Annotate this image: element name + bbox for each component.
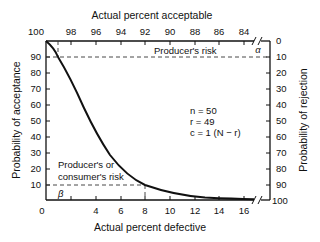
svg-text:10: 10 <box>165 205 176 216</box>
risk-label-line1: Producer's or <box>58 159 114 170</box>
svg-text:12: 12 <box>190 205 201 216</box>
param-n: n = 50 <box>190 105 217 116</box>
svg-text:90: 90 <box>30 51 41 62</box>
bottom-tick-labels: 0 4 6 8 10 12 14 16 <box>39 205 249 216</box>
svg-text:50: 50 <box>30 115 41 126</box>
svg-text:80: 80 <box>30 67 41 78</box>
svg-text:20: 20 <box>30 163 41 174</box>
svg-text:92: 92 <box>140 26 151 37</box>
svg-text:90: 90 <box>165 26 176 37</box>
svg-text:50: 50 <box>276 115 287 126</box>
right-axis-title: Probability of rejection <box>297 68 309 171</box>
svg-text:10: 10 <box>30 179 41 190</box>
left-axis-title: Probability of acceptance <box>10 61 22 178</box>
svg-text:0: 0 <box>39 205 44 216</box>
svg-text:60: 60 <box>276 131 287 142</box>
param-c: c = 1 (N − r) <box>190 127 241 138</box>
svg-text:100: 100 <box>272 195 288 206</box>
svg-text:90: 90 <box>276 179 287 190</box>
top-axis-title: Actual percent acceptable <box>92 9 213 21</box>
svg-text:10: 10 <box>276 51 287 62</box>
alpha-symbol: α <box>255 44 261 55</box>
svg-text:60: 60 <box>30 99 41 110</box>
beta-symbol: β <box>57 188 64 199</box>
svg-text:40: 40 <box>276 99 287 110</box>
svg-text:70: 70 <box>276 147 287 158</box>
svg-text:94: 94 <box>116 26 127 37</box>
left-tick-labels: 90 80 70 60 50 40 30 20 10 <box>30 51 41 190</box>
bottom-axis-title: Actual percent defective <box>94 221 206 233</box>
svg-text:8: 8 <box>142 205 147 216</box>
svg-text:4: 4 <box>93 205 98 216</box>
svg-text:14: 14 <box>214 205 225 216</box>
axis-break-marks <box>252 37 262 204</box>
producers-risk-label: Producer's risk <box>154 45 217 56</box>
svg-text:30: 30 <box>30 147 41 158</box>
svg-text:40: 40 <box>30 131 41 142</box>
svg-text:96: 96 <box>91 26 102 37</box>
svg-text:0: 0 <box>276 35 281 46</box>
svg-text:80: 80 <box>276 163 287 174</box>
svg-text:84: 84 <box>239 26 250 37</box>
svg-text:98: 98 <box>66 26 77 37</box>
oc-curve-chart: Actual percent acceptable 100 98 96 94 9… <box>0 0 320 242</box>
svg-text:100: 100 <box>28 26 44 37</box>
svg-text:88: 88 <box>190 26 201 37</box>
svg-text:6: 6 <box>118 205 123 216</box>
svg-text:16: 16 <box>239 205 250 216</box>
svg-text:70: 70 <box>30 83 41 94</box>
sampling-parameters: n = 50 r = 49 c = 1 (N − r) <box>190 105 241 138</box>
param-r: r = 49 <box>190 116 215 127</box>
svg-text:30: 30 <box>276 83 287 94</box>
svg-text:20: 20 <box>276 67 287 78</box>
risk-label-line2: consumer's risk <box>58 171 124 182</box>
svg-text:86: 86 <box>214 26 225 37</box>
right-tick-labels: 0 10 20 30 40 50 60 70 80 90 100 <box>272 35 288 206</box>
top-tick-labels: 100 98 96 94 92 90 88 86 84 <box>28 26 249 37</box>
